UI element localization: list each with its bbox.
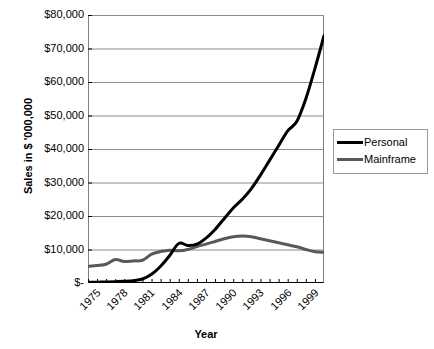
legend-swatch-personal — [337, 141, 363, 144]
legend-item-mainframe: Mainframe — [337, 151, 424, 168]
chart-legend: Personal Mainframe — [333, 129, 428, 174]
legend-label-personal: Personal — [364, 137, 407, 148]
sales-line-chart: Sales in $ '000,000 $-$10,000$20,000$30,… — [0, 0, 434, 349]
legend-swatch-mainframe — [337, 158, 363, 161]
x-axis-title: Year — [88, 328, 324, 340]
x-axis-tick-labels: 197519781981198419871990199319961999 — [0, 0, 434, 349]
legend-item-personal: Personal — [337, 134, 424, 151]
legend-label-mainframe: Mainframe — [364, 154, 416, 165]
